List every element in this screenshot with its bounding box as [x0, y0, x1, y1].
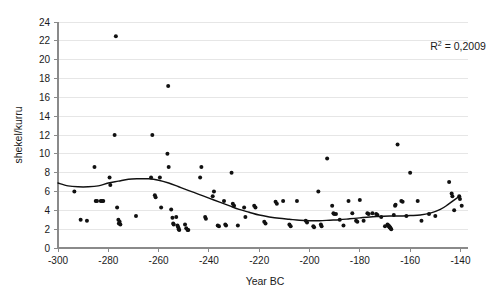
scatter-plot: 024681012141618202224 -300-280-260-240-2…: [0, 0, 490, 299]
x-axis-tick-labels: -300-280-260-240-220-200-180-160-140: [48, 255, 471, 266]
r-squared-label: R2 = 0,2009: [430, 40, 486, 52]
data-points-group: [72, 34, 463, 232]
data-point: [198, 175, 202, 179]
y-tick-label: 8: [44, 167, 50, 178]
data-point: [134, 214, 138, 218]
data-point: [204, 217, 208, 221]
data-point: [212, 190, 216, 194]
data-point: [230, 171, 234, 175]
x-tick-label: -260: [149, 255, 169, 266]
data-point: [419, 219, 423, 223]
x-tick-label: -220: [249, 255, 269, 266]
data-point: [183, 222, 187, 226]
x-tick-label: -140: [450, 255, 470, 266]
data-point: [358, 198, 362, 202]
x-tick-label: -240: [199, 255, 219, 266]
data-point: [367, 212, 371, 216]
data-point: [334, 212, 338, 216]
data-point: [217, 224, 221, 228]
data-point: [320, 224, 324, 228]
data-point: [199, 165, 203, 169]
data-point: [408, 171, 412, 175]
y-tick-label: 16: [39, 92, 51, 103]
y-tick-label: 14: [39, 111, 51, 122]
data-point: [341, 223, 345, 227]
data-point: [236, 223, 240, 227]
y-tick-label: 12: [39, 130, 51, 141]
y-tick-label: 22: [39, 35, 51, 46]
data-point: [211, 194, 215, 198]
y-axis-tick-labels: 024681012141618202224: [39, 17, 51, 254]
data-point: [389, 227, 393, 231]
data-point: [450, 194, 454, 198]
gridlines-group: [58, 22, 468, 229]
annotations-group: R2 = 0,2009: [430, 40, 486, 52]
data-point: [79, 218, 83, 222]
data-point: [275, 202, 279, 206]
data-point: [289, 224, 293, 228]
data-point: [452, 208, 456, 212]
y-tick-label: 18: [39, 73, 51, 84]
data-point: [165, 152, 169, 156]
data-point: [108, 175, 112, 179]
data-point: [113, 133, 117, 137]
data-point: [396, 142, 400, 146]
data-point: [169, 207, 173, 211]
x-tick-label: -300: [48, 255, 68, 266]
y-tick-label: 24: [39, 17, 51, 28]
data-point: [401, 200, 405, 204]
data-point: [167, 165, 171, 169]
y-axis-title: shekel/kurru: [12, 106, 24, 163]
data-point: [350, 211, 354, 215]
y-tick-label: 10: [39, 148, 51, 159]
tick-marks-group: [54, 22, 460, 252]
y-tick-label: 20: [39, 54, 51, 65]
data-point: [370, 211, 374, 215]
data-point: [101, 199, 105, 203]
data-point: [72, 190, 76, 194]
y-tick-label: 6: [44, 186, 50, 197]
data-point: [95, 199, 99, 203]
data-point: [166, 84, 170, 88]
data-point: [362, 219, 366, 223]
data-point: [264, 222, 268, 226]
data-point: [295, 199, 299, 203]
data-point: [118, 222, 122, 226]
data-point: [174, 215, 178, 219]
data-point: [312, 225, 316, 229]
data-point: [394, 203, 398, 207]
chart-container: 024681012141618202224 -300-280-260-240-2…: [0, 0, 490, 299]
data-point: [325, 157, 329, 161]
data-point: [92, 165, 96, 169]
data-point: [433, 214, 437, 218]
y-tick-label: 4: [44, 205, 50, 216]
data-point: [316, 190, 320, 194]
y-tick-label: 2: [44, 224, 50, 235]
data-point: [460, 204, 464, 208]
data-point: [154, 195, 158, 199]
data-point: [355, 220, 359, 224]
data-point: [85, 219, 89, 223]
data-point: [416, 199, 420, 203]
x-axis-title: Year BC: [246, 275, 285, 287]
data-point: [447, 180, 451, 184]
data-point: [330, 204, 334, 208]
data-point: [224, 223, 228, 227]
x-tick-label: -200: [300, 255, 320, 266]
x-tick-label: -160: [400, 255, 420, 266]
data-point: [150, 133, 154, 137]
data-point: [222, 199, 226, 203]
data-point: [115, 206, 119, 210]
data-point: [347, 199, 351, 203]
data-point: [170, 216, 174, 220]
data-point: [114, 34, 118, 38]
data-point: [172, 222, 176, 226]
data-point: [158, 175, 162, 179]
data-point: [159, 206, 163, 210]
data-point: [243, 215, 247, 219]
data-point: [242, 206, 246, 210]
x-tick-label: -180: [350, 255, 370, 266]
data-point: [177, 228, 181, 232]
data-point: [186, 228, 190, 232]
data-point: [281, 199, 285, 203]
